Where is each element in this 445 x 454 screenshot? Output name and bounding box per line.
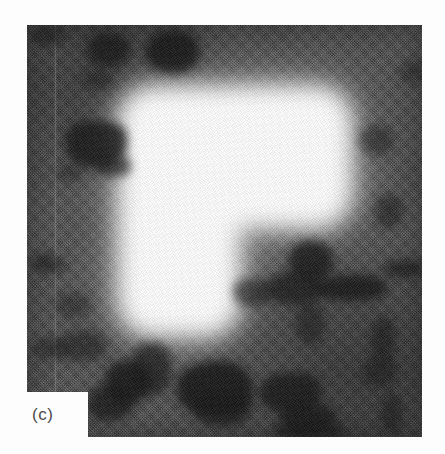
micrograph-image [27,25,422,437]
dark-blob [371,317,395,361]
dark-blob [375,195,403,229]
dark-blob [95,155,131,177]
dark-blob [381,393,403,433]
dark-blob [295,301,325,345]
dark-blob [87,385,133,421]
dark-blob [30,26,64,46]
dark-blob [193,393,251,427]
panel-label: (c) [27,405,53,425]
dark-blob [363,357,397,387]
dark-blob [399,61,422,83]
panel-label-notch: (c) [27,392,88,437]
dark-blob [83,71,113,89]
dark-blob [51,259,67,273]
dark-blob [131,343,171,395]
figure-page: (c) [0,0,445,454]
dark-blob [87,33,131,67]
dark-blob [233,279,273,307]
dark-blob [313,275,387,301]
dark-blob [57,165,83,181]
dark-blob [383,261,422,277]
dark-blob [145,31,199,73]
dark-blob [32,337,66,359]
dark-blob-layer [27,25,422,437]
dark-blob [55,293,91,317]
dark-blob [273,421,345,437]
dark-blob [359,125,393,155]
